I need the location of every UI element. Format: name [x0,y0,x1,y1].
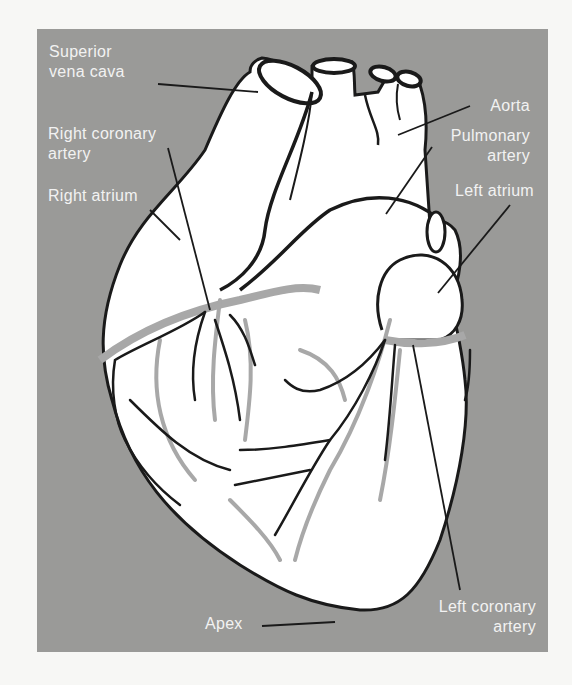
label-right-coronary-artery: Right coronary artery [48,124,156,164]
label-line: Aorta [440,96,530,116]
label-right-atrium: Right atrium [48,186,138,206]
label-line: Right coronary [48,124,156,144]
label-line: artery [48,144,156,164]
label-line: artery [420,146,530,166]
label-line: Left atrium [420,181,534,201]
label-line: Left coronary [390,597,536,617]
label-line: Apex [205,614,243,634]
label-pulmonary-artery: Pulmonary artery [420,126,530,166]
label-superior-vena-cava: Superior vena cava [49,42,125,82]
label-line: Superior [49,42,125,62]
label-line: Right atrium [48,186,138,206]
aorta-opening [313,59,355,73]
label-left-atrium: Left atrium [420,181,534,201]
label-apex: Apex [205,614,243,634]
label-line: vena cava [49,62,125,82]
label-line: Pulmonary [420,126,530,146]
label-aorta: Aorta [440,96,530,116]
label-left-coronary-artery: Left coronary artery [390,597,536,637]
branch-opening-1 [369,64,398,84]
label-line: artery [390,617,536,637]
